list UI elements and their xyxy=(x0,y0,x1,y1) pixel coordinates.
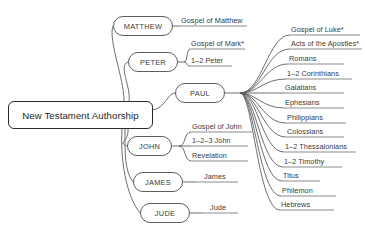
node-jude-label: JUDE xyxy=(155,209,175,218)
node-peter-label: PETER xyxy=(140,58,166,67)
node-paul[interactable]: PAUL xyxy=(175,83,225,103)
root-node[interactable]: New Testament Authorship xyxy=(8,101,153,129)
link-paul-0 xyxy=(240,35,290,93)
leaf-peter-1[interactable]: 1–2 Peter xyxy=(191,56,223,65)
leaf-paul-5[interactable]: Ephesians xyxy=(285,98,320,107)
leaf-paul-8[interactable]: 1–2 Thessalonians xyxy=(285,142,347,151)
link-peter-0 xyxy=(184,49,190,62)
leaf-paul-11[interactable]: Philemon xyxy=(282,186,313,195)
leaf-paul-1[interactable]: Acts of the Apostles* xyxy=(291,39,359,48)
node-john[interactable]: JOHN xyxy=(127,136,172,156)
leaf-paul-2[interactable]: Romans xyxy=(289,54,316,63)
leaf-john-1[interactable]: 1–2–3 John xyxy=(192,136,231,145)
leaf-jude-0[interactable]: Jude xyxy=(210,203,226,212)
node-matthew-label: MATTHEW xyxy=(124,22,163,31)
node-jude[interactable]: JUDE xyxy=(140,203,190,223)
link-peter-1 xyxy=(184,62,190,66)
node-james[interactable]: JAMES xyxy=(133,172,183,192)
link-paul-10 xyxy=(240,93,282,181)
link-paul-7 xyxy=(240,93,286,137)
link-paul-12 xyxy=(240,93,280,210)
link-root-peter xyxy=(124,62,129,101)
link-root-matthew xyxy=(112,26,124,101)
link-paul-11 xyxy=(240,93,281,196)
link-paul-2 xyxy=(240,64,288,93)
leaf-matthew-0[interactable]: Gospel of Matthew xyxy=(181,16,243,25)
leaf-paul-10[interactable]: Titus xyxy=(283,171,299,180)
leaf-paul-9[interactable]: 1–2 Timothy xyxy=(284,157,324,166)
leaf-john-0[interactable]: Gospel of John xyxy=(192,122,242,131)
link-paul-3 xyxy=(240,79,286,93)
node-james-label: JAMES xyxy=(145,178,171,187)
link-john-2 xyxy=(179,146,191,161)
link-paul-9 xyxy=(240,93,283,167)
link-john-0 xyxy=(179,132,191,146)
leaf-paul-3[interactable]: 1–2 Corinthians xyxy=(287,69,339,78)
node-matthew[interactable]: MATTHEW xyxy=(113,16,173,36)
leaf-john-2[interactable]: Revelation xyxy=(192,151,227,160)
leaf-paul-7[interactable]: Colossians xyxy=(287,127,323,136)
node-paul-label: PAUL xyxy=(190,89,210,98)
link-paul-6 xyxy=(240,93,286,123)
root-node-label: New Testament Authorship xyxy=(22,110,138,121)
link-paul-1 xyxy=(240,49,290,93)
link-root-paul xyxy=(153,93,175,110)
leaf-paul-0[interactable]: Gospel of Luke* xyxy=(291,25,344,34)
node-peter[interactable]: PETER xyxy=(128,52,178,72)
link-paul-8 xyxy=(240,93,284,152)
node-john-label: JOHN xyxy=(139,142,160,151)
leaf-james-0[interactable]: James xyxy=(204,172,226,181)
leaf-paul-4[interactable]: Galatians xyxy=(285,83,316,92)
leaf-paul-12[interactable]: Hebrews xyxy=(281,200,310,209)
leaf-peter-0[interactable]: Gospel of Mark* xyxy=(191,39,244,48)
leaf-paul-6[interactable]: Philippians xyxy=(287,113,323,122)
mind-map-canvas: New Testament Authorship MATTHEW PETER P… xyxy=(0,0,365,237)
link-paul-5 xyxy=(240,93,284,108)
